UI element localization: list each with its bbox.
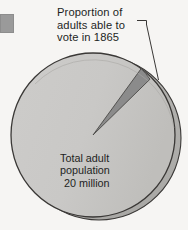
corner-marker-block [0, 14, 14, 33]
pie-slice-total-population[interactable] [11, 53, 175, 217]
pie-chart-figure: Proportion of adults able to vote in 186… [0, 0, 188, 230]
pie-center-label: Total adult population 20 million [52, 152, 138, 189]
callout-title-line-2: adults able to [55, 19, 147, 32]
pie-depth-ring [17, 56, 181, 220]
pie-inner-arc-shading [35, 60, 174, 128]
pie-label-line-1: Total adult [52, 152, 138, 164]
callout-title-line-3: vote in 1865 [55, 31, 147, 44]
callout-title: Proportion of adults able to vote in 186… [55, 6, 147, 44]
pie-depth-disc [17, 56, 181, 220]
pie-label-line-3: 20 million [52, 177, 138, 189]
callout-title-line-1: Proportion of [55, 6, 147, 19]
pie-total-disc[interactable] [11, 53, 175, 217]
pie-slice-able-to-vote[interactable] [93, 69, 150, 135]
pie-voting-wedge[interactable] [93, 69, 150, 135]
pie-label-line-2: population [52, 164, 138, 176]
leader-line-stem [147, 25, 159, 81]
